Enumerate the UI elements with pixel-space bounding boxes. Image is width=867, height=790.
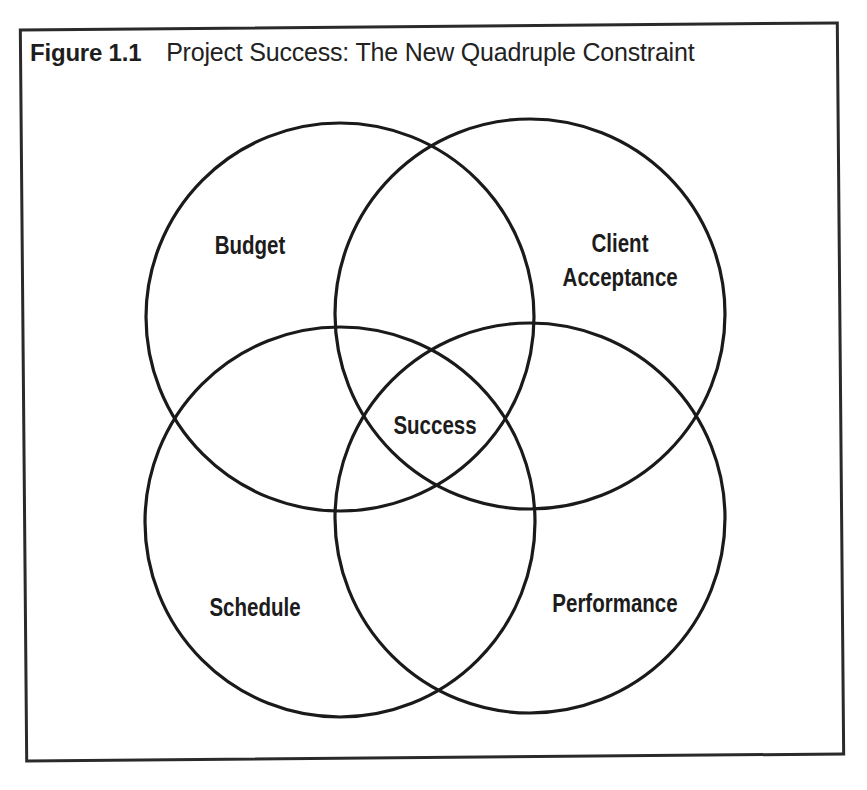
label-success: Success <box>390 408 480 442</box>
label-schedule: Schedule <box>202 590 309 624</box>
label-budget: Budget <box>209 228 291 262</box>
circle-budget <box>146 123 534 511</box>
circle-client-acceptance <box>335 119 725 509</box>
label-performance: Performance <box>545 586 684 620</box>
circle-schedule <box>145 327 535 717</box>
venn-diagram <box>0 0 867 790</box>
label-client-acceptance: Client Acceptance <box>563 226 678 294</box>
circle-performance <box>335 323 725 713</box>
